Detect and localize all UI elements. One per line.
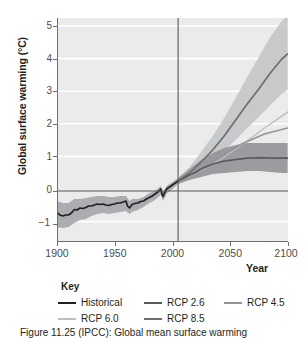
legend-row-1: Historical RCP 2.6 RCP 4.5: [58, 296, 307, 309]
x-tick-mark-2100: [288, 242, 289, 246]
legend-item-rcp60[interactable]: RCP 6.0: [58, 313, 144, 324]
x-tick-mark-2000: [173, 242, 174, 246]
y-tick-label-1: 1: [30, 152, 52, 162]
legend-line-rcp60-icon: [58, 318, 76, 320]
chart-svg: [57, 18, 288, 241]
legend-title: Key: [61, 281, 307, 292]
y-axis-title: Global surface warming (°C): [16, 0, 28, 224]
legend-label-rcp85: RCP 8.5: [167, 313, 205, 324]
figure-caption: Figure 11.25 (IPCC): Global mean surface…: [20, 327, 307, 338]
y-tick-label-neg1: −1: [28, 218, 50, 228]
y-axis-line: [57, 18, 58, 241]
y-tick-mark-1: [53, 156, 57, 157]
y-tick-mark-2: [53, 124, 57, 125]
legend-line-rcp85-icon: [144, 318, 162, 320]
x-tick-label-2000: 2000: [153, 248, 193, 259]
y-tick-mark-neg1: [53, 224, 57, 225]
plot-area: [57, 18, 288, 241]
y-tick-mark-0: [53, 191, 57, 192]
y-tick-label-5: 5: [30, 21, 52, 31]
gridlines: [57, 26, 288, 222]
y-tick-label-2: 2: [30, 119, 52, 129]
y-tick-mark-5: [53, 26, 57, 27]
x-axis-title: Year: [246, 262, 268, 274]
legend-item-historical[interactable]: Historical: [58, 297, 144, 308]
legend-item-rcp26[interactable]: RCP 2.6: [144, 297, 224, 308]
y-tick-mark-4: [53, 59, 57, 60]
x-tick-mark-1950: [115, 242, 116, 246]
legend-item-rcp45[interactable]: RCP 4.5: [224, 297, 285, 308]
legend-row-2: RCP 6.0 RCP 8.5: [58, 312, 307, 325]
y-tick-label-3: 3: [30, 86, 52, 96]
x-tick-label-1900: 1900: [37, 248, 77, 259]
y-tick-label-4: 4: [30, 54, 52, 64]
legend-label-rcp60: RCP 6.0: [81, 313, 119, 324]
x-tick-label-2100: 2100: [266, 248, 306, 259]
y-tick-label-0: 0: [30, 185, 52, 195]
x-tick-mark-1900: [57, 242, 58, 246]
legend-label-rcp45: RCP 4.5: [247, 297, 285, 308]
legend-line-historical-icon: [58, 302, 76, 304]
legend-line-rcp26-icon: [144, 302, 162, 304]
x-tick-mark-2050: [230, 242, 231, 246]
x-tick-label-1950: 1950: [95, 248, 135, 259]
x-tick-label-2050: 2050: [210, 248, 250, 259]
y-tick-mark-3: [53, 91, 57, 92]
legend-label-historical: Historical: [81, 297, 122, 308]
legend-label-rcp26: RCP 2.6: [167, 297, 205, 308]
legend-item-rcp85[interactable]: RCP 8.5: [144, 313, 224, 324]
chart-legend: Key Historical RCP 2.6 RCP 4.5 RCP 6.0: [58, 281, 307, 325]
legend-line-rcp45-icon: [224, 302, 242, 304]
